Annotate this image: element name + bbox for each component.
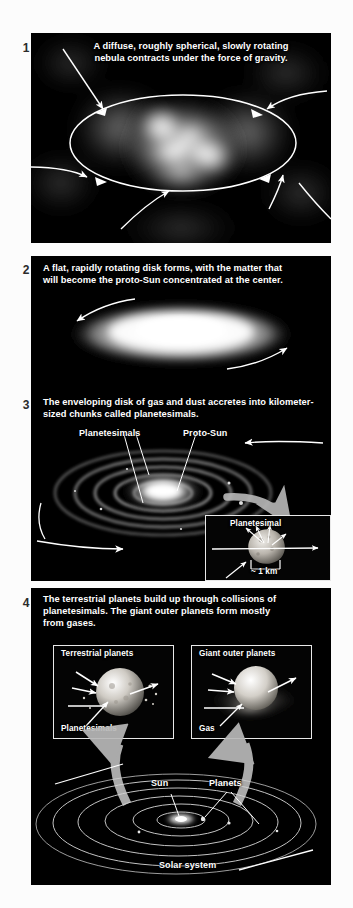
- solar-system-caption: Solar system: [159, 860, 216, 870]
- planets-label: Planets: [209, 778, 242, 788]
- nebula-illustration: [31, 33, 331, 243]
- planetesimal-scale-label: ~ 1 km: [251, 567, 277, 576]
- step-2-caption: A flat, rapidly rotating disk forms, wit…: [43, 262, 323, 286]
- step-2-plate: A flat, rapidly rotating disk forms, wit…: [31, 256, 331, 391]
- step-1-caption: A diffuse, roughly spherical, slowly rot…: [71, 40, 311, 64]
- step-3-plate: The enveloping disk of gas and dust accr…: [31, 391, 331, 581]
- planetesimal-inset-title: Planetesimal: [230, 519, 281, 528]
- planetesimal-inset: Planetesimal ~ 1 km: [205, 515, 331, 581]
- solar-system-illustration: [31, 588, 331, 885]
- sun-label: Sun: [151, 778, 168, 788]
- planetesimals-label: Planetesimals: [79, 428, 140, 438]
- step-1-plate: A diffuse, roughly spherical, slowly rot…: [31, 33, 331, 243]
- proto-sun-label: Proto-Sun: [183, 428, 227, 438]
- step-4-plate: The terrestrial planets build up through…: [31, 588, 331, 885]
- solar-system-formation-figure: 1: [0, 0, 353, 908]
- step-3-caption: The enveloping disk of gas and dust accr…: [43, 396, 327, 420]
